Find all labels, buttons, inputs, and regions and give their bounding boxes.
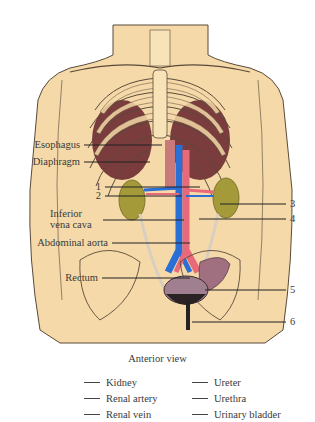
answer-blank[interactable] [84, 414, 100, 415]
label-number-5: 5 [290, 284, 295, 295]
key-item-urethra: Urethra [192, 391, 281, 407]
key-item-renal-vein: Renal vein [84, 407, 158, 422]
label-number-4: 4 [290, 213, 295, 224]
label-diaphragm: Diaphragm [18, 156, 80, 167]
label-abdominal-aorta: Abdominal aorta [10, 237, 108, 248]
label-number-6: 6 [290, 316, 295, 327]
answer-blank[interactable] [192, 398, 208, 399]
answer-blank[interactable] [192, 414, 208, 415]
label-rectum: Rectum [40, 272, 98, 283]
label-esophagus: Esophagus [18, 139, 80, 150]
answer-blank[interactable] [192, 382, 208, 383]
figure-caption: Anterior view [0, 353, 315, 364]
anatomy-figure: Esophagus Diaphragm 1 2 Inferior vena ca… [0, 0, 315, 345]
label-inferior-vena-cava-line1: Inferior [50, 208, 82, 219]
answer-blank[interactable] [84, 382, 100, 383]
torso-illustration [0, 0, 315, 345]
label-number-3: 3 [290, 198, 295, 209]
key-item-renal-artery: Renal artery [84, 391, 158, 407]
key-item-ureter: Ureter [192, 375, 281, 391]
answer-blank[interactable] [84, 398, 100, 399]
key-item-urinary-bladder: Urinary bladder [192, 407, 281, 422]
key-column-right: Ureter Urethra Urinary bladder [192, 375, 281, 422]
key-column-left: Kidney Renal artery Renal vein [84, 375, 158, 422]
label-inferior-vena-cava-line2: vena cava [50, 219, 92, 230]
key-item-kidney: Kidney [84, 375, 158, 391]
label-number-2: 2 [80, 190, 101, 201]
